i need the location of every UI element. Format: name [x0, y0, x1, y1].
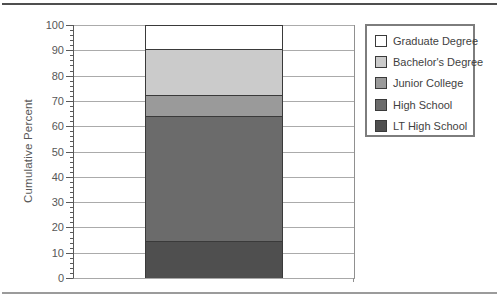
legend-swatch-lt-high-school [375, 120, 387, 132]
legend-item-bachelor-s-degree: Bachelor's Degree [375, 51, 473, 72]
y-minor-tick [70, 81, 73, 82]
bar-segment-graduate-degree [145, 25, 283, 49]
y-tick-label-30: 30 [30, 195, 64, 209]
y-tick-label-70: 70 [30, 94, 64, 108]
chart-figure: Cumulative Percent 010203040506070809010… [0, 0, 499, 305]
y-minor-tick [70, 146, 73, 147]
legend-item-graduate-degree: Graduate Degree [375, 30, 473, 51]
legend-swatch-junior-college [375, 77, 387, 89]
y-major-tick-100 [66, 25, 73, 26]
y-minor-tick [70, 111, 73, 112]
x-axis-end-tick [353, 278, 354, 282]
stacked-bar [145, 25, 283, 278]
y-minor-tick [70, 157, 73, 158]
legend-item-junior-college: Junior College [375, 73, 473, 94]
y-minor-tick [70, 71, 73, 72]
y-tick-label-60: 60 [30, 119, 64, 133]
y-minor-tick [70, 141, 73, 142]
y-major-tick-80 [66, 76, 73, 77]
legend-label-high-school: High School [393, 99, 452, 111]
bottom-border-rule [2, 292, 497, 294]
y-minor-tick [70, 96, 73, 97]
y-minor-tick [70, 268, 73, 269]
y-minor-tick [70, 187, 73, 188]
y-major-tick-60 [66, 126, 73, 127]
y-minor-tick [70, 45, 73, 46]
y-minor-tick [70, 207, 73, 208]
y-major-tick-90 [66, 50, 73, 51]
bar-segment-lt-high-school [145, 241, 283, 278]
y-minor-tick [70, 30, 73, 31]
y-tick-label-50: 50 [30, 145, 64, 159]
y-minor-tick [70, 106, 73, 107]
y-major-tick-20 [66, 227, 73, 228]
legend-label-junior-college: Junior College [393, 77, 463, 89]
y-minor-tick [70, 217, 73, 218]
legend-swatch-graduate-degree [375, 35, 387, 47]
plot-area [73, 25, 355, 279]
y-minor-tick [70, 263, 73, 264]
y-minor-tick [70, 55, 73, 56]
y-minor-tick [70, 162, 73, 163]
bar-segment-high-school [145, 116, 283, 241]
y-major-tick-30 [66, 202, 73, 203]
legend: Graduate DegreeBachelor's DegreeJunior C… [365, 24, 475, 137]
legend-item-high-school: High School [375, 94, 473, 115]
y-minor-tick [70, 192, 73, 193]
y-minor-tick [70, 248, 73, 249]
legend-label-bachelor-s-degree: Bachelor's Degree [393, 56, 483, 68]
y-minor-tick [70, 40, 73, 41]
y-minor-tick [70, 60, 73, 61]
y-tick-label-20: 20 [30, 220, 64, 234]
y-minor-tick [70, 116, 73, 117]
legend-label-lt-high-school: LT High School [393, 120, 467, 132]
y-minor-tick [70, 167, 73, 168]
y-minor-tick [70, 258, 73, 259]
y-minor-tick [70, 35, 73, 36]
y-minor-tick [70, 86, 73, 87]
y-minor-tick [70, 222, 73, 223]
y-major-tick-10 [66, 253, 73, 254]
legend-swatch-bachelor-s-degree [375, 56, 387, 68]
legend-item-lt-high-school: LT High School [375, 116, 473, 137]
y-minor-tick [70, 238, 73, 239]
y-minor-tick [70, 172, 73, 173]
y-major-tick-0 [66, 278, 73, 279]
y-minor-tick [70, 197, 73, 198]
y-minor-tick [70, 243, 73, 244]
bar-segment-junior-college [145, 95, 283, 116]
y-minor-tick [70, 131, 73, 132]
y-minor-tick [70, 136, 73, 137]
y-minor-tick [70, 232, 73, 233]
y-tick-label-90: 90 [30, 43, 64, 57]
top-border-rule [2, 3, 497, 5]
y-minor-tick [70, 91, 73, 92]
y-minor-tick [70, 121, 73, 122]
y-minor-tick [70, 273, 73, 274]
y-tick-label-0: 0 [30, 271, 64, 285]
bar-segment-bachelor-s-degree [145, 49, 283, 95]
y-tick-label-80: 80 [30, 69, 64, 83]
y-major-tick-40 [66, 177, 73, 178]
legend-swatch-high-school [375, 99, 387, 111]
y-tick-label-40: 40 [30, 170, 64, 184]
y-minor-tick [70, 182, 73, 183]
y-tick-label-10: 10 [30, 246, 64, 260]
y-major-tick-70 [66, 101, 73, 102]
legend-label-graduate-degree: Graduate Degree [393, 35, 478, 47]
y-minor-tick [70, 212, 73, 213]
y-tick-label-100: 100 [30, 18, 64, 32]
y-major-tick-50 [66, 152, 73, 153]
y-minor-tick [70, 65, 73, 66]
